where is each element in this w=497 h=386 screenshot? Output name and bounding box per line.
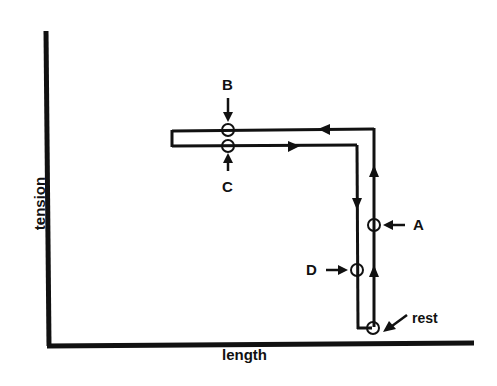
- y-axis-label: tension: [31, 169, 48, 239]
- pointer-arrows: [223, 98, 407, 332]
- loop-path: [172, 128, 374, 329]
- point-b-label: B: [222, 76, 233, 93]
- arrow-up-icon: [223, 153, 233, 163]
- arrow-down-icon: [223, 112, 233, 122]
- arrow-right-icon: [338, 265, 348, 275]
- point-a-label: A: [413, 216, 424, 233]
- point-c-label: C: [222, 178, 233, 195]
- point-d-label: D: [306, 261, 317, 278]
- point-rest-label: rest: [412, 310, 438, 326]
- x-axis-label: length: [222, 346, 267, 363]
- arrow-left-icon: [383, 220, 393, 230]
- tension-length-diagram: [0, 0, 497, 386]
- arrow-up-icon: [369, 265, 379, 277]
- arrow-right-icon: [288, 141, 300, 152]
- direction-arrows: [288, 124, 379, 277]
- arrow-left-icon: [318, 124, 330, 135]
- arrow-up-icon: [369, 165, 379, 177]
- arrow-down-icon: [352, 198, 362, 210]
- arrow-diagonal-icon: [383, 321, 396, 332]
